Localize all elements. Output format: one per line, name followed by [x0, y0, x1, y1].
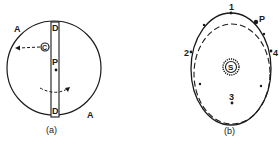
figure-b: 1 P 2 4 3 S (b) [184, 2, 278, 136]
orbit-point-1 [230, 12, 233, 15]
label-c: C [42, 44, 47, 51]
orbit-point [260, 85, 262, 87]
label-a-bottom: A [87, 110, 94, 120]
orbit-point-3 [231, 102, 234, 105]
label-d-top: D [52, 23, 59, 33]
caption-b: (b) [224, 126, 235, 136]
label-1: 1 [229, 2, 234, 12]
label-a-top: A [14, 24, 21, 34]
sun-icon: S [223, 59, 239, 75]
label-d-bottom: D [52, 106, 59, 116]
figure-a: D D C P A A (a) [7, 21, 101, 135]
label-3: 3 [229, 92, 234, 102]
dashed-arrow [19, 47, 40, 48]
arrowhead-left-icon [15, 46, 20, 51]
point-p [55, 69, 58, 72]
orbit-point-2 [190, 51, 193, 54]
label-sun: S [228, 63, 234, 72]
label-p: P [259, 14, 265, 24]
orbit-point-4 [270, 50, 273, 53]
label-4: 4 [273, 48, 278, 58]
orbit-point [199, 83, 201, 85]
label-p: P [52, 57, 58, 67]
diagram-canvas: D D C P A A (a) [0, 0, 279, 145]
c-symbol: C [41, 43, 49, 51]
orbit-point [263, 33, 265, 35]
label-2: 2 [184, 48, 189, 58]
orbit-point [203, 24, 205, 26]
caption-a: (a) [46, 125, 57, 135]
orbit-point-p [254, 20, 258, 24]
